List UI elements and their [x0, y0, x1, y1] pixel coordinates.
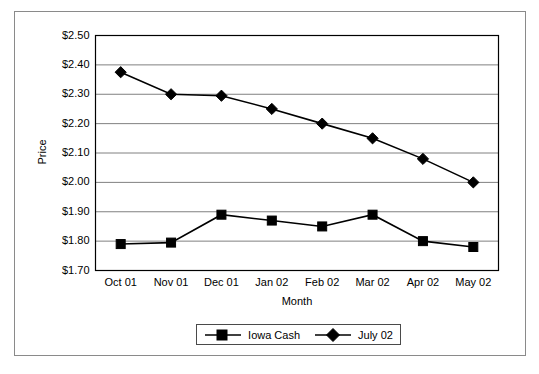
data-point-marker: [115, 67, 126, 78]
data-point-marker: [418, 237, 427, 246]
data-point-marker: [266, 103, 277, 114]
data-point-marker: [317, 118, 328, 129]
data-point-marker: [267, 216, 276, 225]
data-point-marker: [116, 240, 125, 249]
legend-item-iowa-cash[interactable]: Iowa Cash: [204, 328, 300, 342]
legend-label-iowa-cash: Iowa Cash: [248, 329, 300, 341]
data-point-marker: [217, 210, 226, 219]
legend-swatch-square: [204, 328, 242, 342]
data-point-marker: [216, 90, 227, 101]
data-point-marker: [318, 222, 327, 231]
data-point-marker: [417, 153, 428, 164]
data-point-marker: [367, 133, 378, 144]
series-line-july-02: [121, 72, 474, 182]
legend-swatch-diamond: [314, 328, 352, 342]
legend-label-july-02: July 02: [358, 329, 393, 341]
plot-area: [0, 0, 539, 374]
data-point-marker: [165, 89, 176, 100]
gridlines: [96, 65, 499, 241]
chart-figure: Price Month $2.50$2.40$2.30$2.20$2.10$2.…: [0, 0, 539, 374]
chart-legend: Iowa Cash July 02: [196, 324, 401, 345]
data-point-marker: [368, 210, 377, 219]
legend-item-july-02[interactable]: July 02: [314, 328, 393, 342]
data-point-marker: [469, 243, 478, 252]
data-point-marker: [167, 238, 176, 247]
data-point-marker: [468, 177, 479, 188]
